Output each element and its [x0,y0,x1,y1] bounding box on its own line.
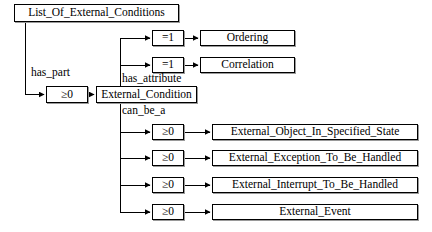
node-list-of-external-conditions[interactable]: List_Of_External_Conditions [14,4,179,22]
node-external-condition[interactable]: External_Condition [96,86,197,103]
node-correlation[interactable]: Correlation [200,57,295,73]
node-label: =1 [158,59,178,71]
node-external-exception-to-be-handled[interactable]: External_Exception_To_Be_Handled [212,150,418,166]
node-cardinality-has-part[interactable]: ≥0 [46,86,88,103]
node-cardinality-attribute-1[interactable]: =1 [152,30,184,46]
edge-root-to-card-part [25,22,44,95]
node-cardinality-can-be-a-1[interactable]: ≥0 [152,124,184,140]
node-external-object-in-specified-state[interactable]: External_Object_In_Specified_State [212,124,418,140]
node-label: External_Exception_To_Be_Handled [225,152,405,164]
node-label: External_Object_In_Specified_State [227,126,404,138]
node-cardinality-attribute-2[interactable]: =1 [152,57,184,73]
node-label: External_Interrupt_To_Be_Handled [228,179,402,191]
node-label: Correlation [217,59,277,71]
node-external-interrupt-to-be-handled[interactable]: External_Interrupt_To_Be_Handled [212,177,418,193]
node-ordering[interactable]: Ordering [200,30,295,46]
node-label: List_Of_External_Conditions [24,7,169,19]
edge-label-has-part: has_part [31,67,70,79]
node-label: ≥0 [158,152,178,164]
node-label: External_Event [275,206,355,218]
edge-label-can-be-a: can_be_a [122,105,165,117]
node-cardinality-can-be-a-2[interactable]: ≥0 [152,150,184,166]
node-label: External_Condition [97,88,196,100]
node-label: Ordering [223,32,273,44]
node-label: ≥0 [158,179,178,191]
node-label: =1 [158,32,178,44]
node-label: ≥0 [57,88,77,100]
diagram-canvas: List_Of_External_Conditions ≥0 External_… [0,0,432,232]
edge-label-has-attribute: has_attribute [122,73,181,85]
node-label: ≥0 [158,206,178,218]
node-cardinality-can-be-a-3[interactable]: ≥0 [152,177,184,193]
node-label: ≥0 [158,126,178,138]
node-external-event[interactable]: External_Event [212,204,418,220]
node-cardinality-can-be-a-4[interactable]: ≥0 [152,204,184,220]
